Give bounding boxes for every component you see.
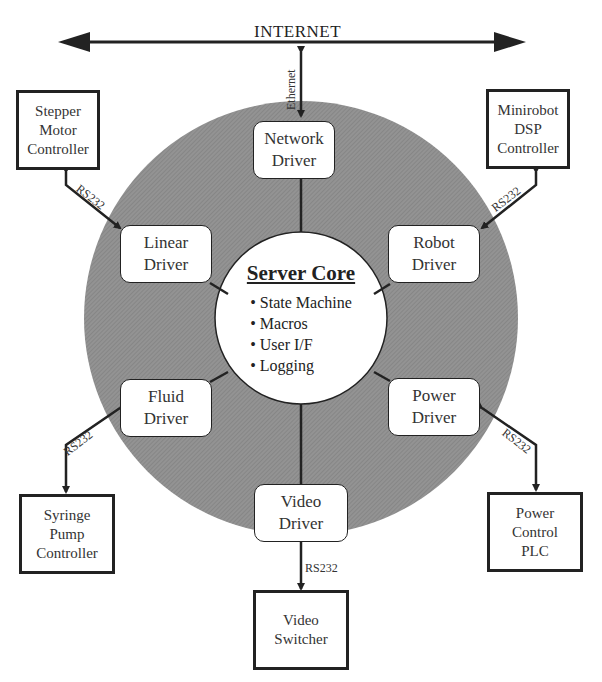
server-core-title: Server Core: [247, 261, 355, 286]
linear-driver: Linear Driver: [120, 225, 212, 283]
internet-label: INTERNET: [254, 22, 341, 42]
minirobot-dsp-controller: Minirobot DSP Controller: [486, 89, 570, 169]
syringe-pump-controller: Syringe Pump Controller: [19, 494, 115, 574]
server-core-list: State Machine Macros User I/F Logging: [250, 292, 352, 376]
list-item: Logging: [250, 355, 352, 376]
rs232-label-video: RS232: [305, 561, 338, 576]
network-driver: Network Driver: [253, 121, 335, 179]
power-control-plc: Power Control PLC: [487, 492, 583, 572]
video-switcher: Video Switcher: [253, 590, 349, 670]
list-item: Macros: [250, 313, 352, 334]
stepper-motor-controller: Stepper Motor Controller: [16, 90, 100, 170]
ethernet-label: Ethernet: [284, 69, 299, 110]
fluid-driver: Fluid Driver: [120, 379, 212, 437]
power-driver: Power Driver: [388, 378, 480, 436]
list-item: User I/F: [250, 334, 352, 355]
server-core: Server Core State Machine Macros User I/…: [215, 232, 387, 404]
list-item: State Machine: [250, 292, 352, 313]
robot-driver: Robot Driver: [388, 225, 480, 283]
video-driver: Video Driver: [254, 484, 348, 542]
